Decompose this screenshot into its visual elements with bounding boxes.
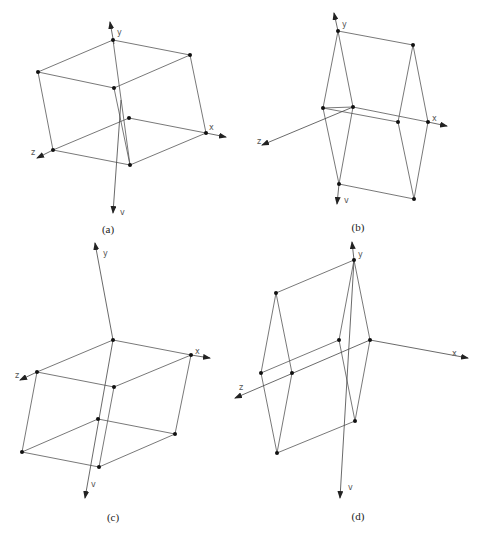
figure-canvas: yvxz(a) yvxz(b) yvxz(c) yvxz(d) [0,0,484,537]
axis-v-label: v [120,208,125,217]
cube-vertex [97,465,101,469]
cube-edge [22,372,37,452]
cube-edge [114,88,130,165]
axis-z-arrow [262,107,353,145]
cube-edge [355,340,370,421]
axis-z-label: z [31,148,35,157]
cube-vertex [96,417,100,421]
cube-edge [338,31,353,107]
cube-edge [22,419,98,452]
cube-edge [175,355,191,434]
cube-edge [99,434,175,467]
cube-edge [261,293,276,373]
axis-y-label: y [117,28,122,37]
axis-z-label: z [15,371,19,380]
cube-vertex [188,53,192,57]
cube-edge [37,340,113,372]
cube-vertex [337,338,341,342]
cube-vertex [128,163,132,167]
axis-x-label: x [452,349,457,358]
cube-vertex [396,120,400,124]
cube-edge [190,55,206,133]
axis-x-arrow [428,122,447,126]
cube-edge [114,55,190,88]
axis-x-label: x [432,114,437,123]
cube-vertex [259,371,263,375]
cube-edge [22,452,99,467]
cube-edge [354,260,370,340]
cube-edge [37,372,114,387]
cube-edge [339,184,414,199]
axis-x-label: x [209,123,214,132]
cube-edge [130,133,206,165]
cube-edge [353,107,428,122]
axis-z-label: z [257,137,261,146]
cube-vertex [368,338,372,342]
cube-edge [339,107,353,184]
cube-edge [113,40,190,55]
cube-edge [276,260,354,293]
cube-edge [323,107,353,108]
cube-vertex [321,106,325,110]
axis-v-label: v [344,196,349,205]
cube-edge [113,340,191,355]
cube-edge [114,355,191,387]
cube-vertex [111,38,115,42]
cube-vertex [336,29,340,33]
cube-vertex [274,291,278,295]
cube-vertex [173,432,177,436]
axis-v-arrow [113,100,121,213]
panel-caption: (d) [352,510,365,523]
axis-y-arrow [352,242,354,260]
cube-edge [338,31,413,45]
cube-edge [261,373,277,453]
panel-b: yvxz(b) [257,13,447,234]
cube-vertex [411,43,415,47]
cube-edge [398,45,413,122]
cube-edge [53,150,130,165]
cube-vertex [204,131,208,135]
cube-vertex [189,353,193,357]
axis-z-arrow [235,340,370,398]
panel-d: yvxz(d) [235,242,468,523]
cube-vertex [353,419,357,423]
cube-edge [38,72,114,88]
cube-edge [277,373,292,453]
cube-vertex [20,450,24,454]
cube-vertex [35,370,39,374]
cube-vertex [112,86,116,90]
cube-vertex [51,148,55,152]
axis-z-label: z [239,383,243,392]
cube-edge [113,40,130,165]
cube-vertex [112,385,116,389]
cube-vertex [426,120,430,124]
axis-z-arrow [37,150,53,158]
cube-vertex [352,258,356,262]
cube-vertex [337,182,341,186]
axis-z-arrow [20,372,37,380]
cube-vertex [111,338,115,342]
cube-edge [414,122,428,199]
cube-edge [98,419,175,434]
cube-edge [261,340,339,373]
cube-edge [398,122,414,199]
axis-y-label: y [358,250,363,259]
axis-x-label: x [195,347,200,356]
cube-vertex [36,70,40,74]
cube-vertex [275,451,279,455]
axis-y-label: y [342,20,347,29]
axis-v-label: v [348,483,353,492]
cube-vertex [127,116,131,120]
panel-caption: (a) [102,223,115,236]
panel-caption: (b) [352,221,365,234]
cube-edge [129,118,206,133]
axis-v-label: v [91,480,96,489]
panel-a: yvxz(a) [31,22,226,236]
cube-edge [323,31,338,108]
panel-caption: (c) [107,511,120,524]
axis-y-arrow [334,13,338,31]
axis-v-arrow [337,184,339,204]
cube-vertex [351,105,355,109]
cube-vertex [412,197,416,201]
cube-edge [38,40,113,72]
